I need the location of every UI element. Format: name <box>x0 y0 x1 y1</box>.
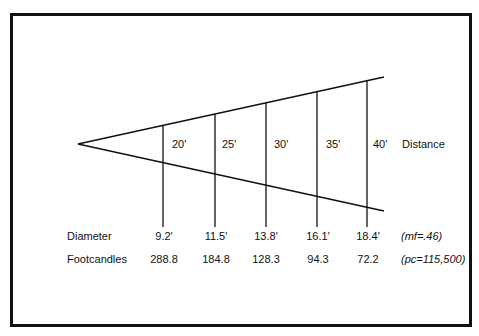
beam-upper-edge <box>78 77 384 144</box>
beam-lower-edge <box>78 144 384 211</box>
distance-axis-label: Distance <box>402 138 445 150</box>
footcandles-value: 72.2 <box>357 253 378 265</box>
footcandles-value: 184.8 <box>202 253 230 265</box>
diameter-value: 9.2' <box>155 230 172 242</box>
distance-label-20: 20' <box>172 138 186 150</box>
footcandles-value: 128.3 <box>252 253 280 265</box>
diameter-value: 13.8' <box>254 230 278 242</box>
footcandles-value: 288.8 <box>150 253 178 265</box>
beam-cone-diagram <box>0 0 479 336</box>
distance-label-40: 40' <box>373 138 387 150</box>
diameter-value: 11.5' <box>205 230 228 242</box>
diameter-value: 16.1' <box>306 230 330 242</box>
footcandles-value: 94.3 <box>307 253 328 265</box>
distance-label-35: 35' <box>326 138 340 150</box>
distance-label-25: 25' <box>222 138 236 150</box>
footcandles-row-label: Footcandles <box>67 253 127 265</box>
distance-label-30: 30' <box>274 138 288 150</box>
footcandles-note: (pc=115,500) <box>401 253 465 265</box>
diameter-note: (mf=.46) <box>401 230 442 242</box>
diameter-value: 18.4' <box>356 230 380 242</box>
diameter-row-label: Diameter <box>67 230 112 242</box>
